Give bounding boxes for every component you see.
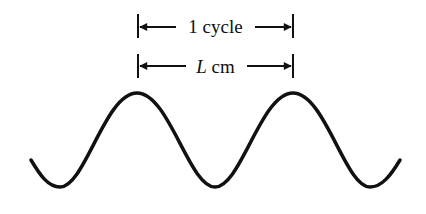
length-variable: L: [195, 56, 207, 77]
length-label: L cm: [195, 56, 235, 77]
wavelength-diagram: 1 cycle L cm: [0, 0, 426, 214]
sine-wave: [31, 93, 400, 187]
length-dimension: L cm: [138, 54, 293, 78]
cycle-label: 1 cycle: [188, 16, 242, 37]
cycle-dimension: 1 cycle: [138, 14, 293, 38]
length-unit: cm: [207, 56, 235, 77]
